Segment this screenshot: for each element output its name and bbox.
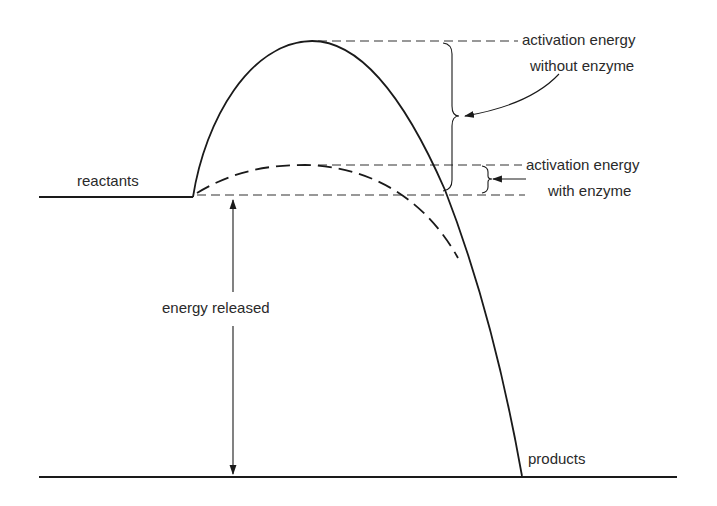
energy-released-label: energy released (162, 299, 270, 316)
curve-without-enzyme (193, 41, 522, 476)
arrow-to-brace-without-enzyme (465, 74, 559, 116)
activation-energy-without-enzyme-label-line2: without enzyme (529, 57, 634, 74)
reactants-label: reactants (77, 172, 139, 189)
enzyme-energy-diagram: reactants products energy released activ… (0, 0, 717, 506)
activation-energy-with-enzyme-label-line1: activation energy (526, 156, 640, 173)
curve-with-enzyme (197, 165, 458, 258)
products-label: products (528, 450, 586, 467)
brace-with-enzyme (482, 166, 492, 193)
activation-energy-without-enzyme-label-line1: activation energy (522, 31, 636, 48)
activation-energy-with-enzyme-label-line2: with enzyme (547, 182, 631, 199)
brace-without-enzyme (443, 43, 459, 191)
